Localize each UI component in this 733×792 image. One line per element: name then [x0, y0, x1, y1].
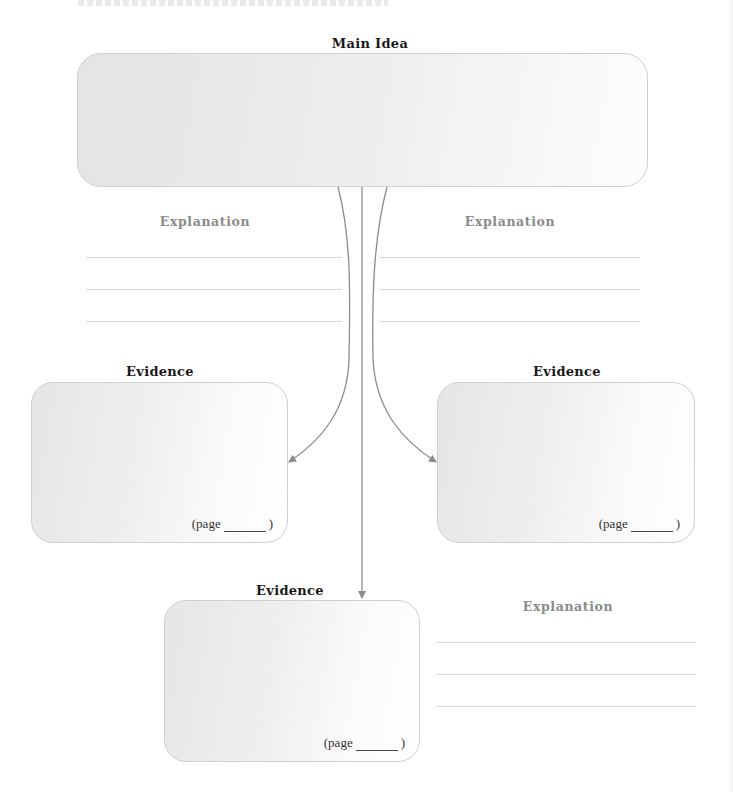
- writing-line[interactable]: [86, 257, 342, 258]
- writing-line[interactable]: [86, 289, 342, 290]
- evidence-heading-bottom: Evidence: [215, 583, 365, 598]
- writing-line[interactable]: [379, 321, 639, 322]
- evidence-heading-left: Evidence: [85, 364, 235, 379]
- page-label: (page: [324, 735, 353, 751]
- writing-line[interactable]: [437, 674, 695, 675]
- explanation-heading-upper-left: Explanation: [110, 214, 300, 229]
- page-label: (page: [192, 516, 221, 532]
- page-label: (page: [599, 516, 628, 532]
- evidence-box-bottom[interactable]: (page ): [164, 600, 420, 762]
- explanation-heading-lower-right: Explanation: [478, 599, 658, 614]
- explanation-heading-upper-right: Explanation: [415, 214, 605, 229]
- page-number-field[interactable]: [631, 519, 673, 532]
- evidence-heading-right: Evidence: [492, 364, 642, 379]
- cropped-instruction-text: [78, 0, 388, 6]
- main-idea-heading: Main Idea: [270, 36, 470, 51]
- page-close: ): [676, 516, 680, 532]
- page-edge-shadow: [727, 0, 733, 792]
- page-reference: (page ): [324, 735, 405, 751]
- main-idea-box[interactable]: [77, 53, 648, 187]
- writing-line[interactable]: [437, 642, 695, 643]
- page-number-field[interactable]: [224, 519, 266, 532]
- page-number-field[interactable]: [356, 738, 398, 751]
- page-close: ): [269, 516, 273, 532]
- writing-line[interactable]: [437, 706, 695, 707]
- writing-line[interactable]: [86, 321, 342, 322]
- evidence-box-right[interactable]: (page ): [437, 382, 695, 543]
- page-reference: (page ): [599, 516, 680, 532]
- evidence-box-left[interactable]: (page ): [31, 382, 288, 543]
- writing-line[interactable]: [379, 257, 639, 258]
- writing-line[interactable]: [379, 289, 639, 290]
- page-close: ): [401, 735, 405, 751]
- page-reference: (page ): [192, 516, 273, 532]
